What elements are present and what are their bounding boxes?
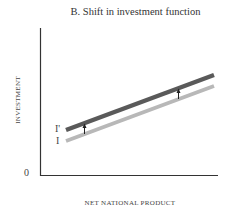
line-I-shifted <box>66 75 214 130</box>
y-axis-label: INVESTMENT <box>14 60 22 140</box>
chart-plot <box>0 0 231 218</box>
x-axis-label: NET NATIONAL PRODUCT <box>40 199 220 207</box>
origin-label: 0 <box>24 167 29 178</box>
series-label-I: I <box>56 135 59 146</box>
line-I <box>66 86 214 141</box>
series-label-I-shifted: I' <box>55 123 60 134</box>
